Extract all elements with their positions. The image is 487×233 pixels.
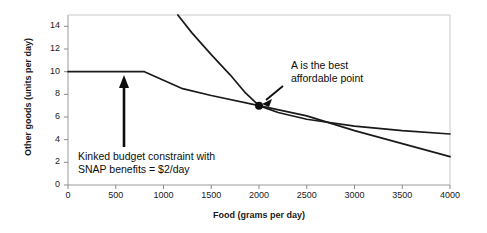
arrow-to-point-a bbox=[262, 86, 283, 107]
y-tick-label: 12 bbox=[34, 43, 60, 53]
x-tick-label: 2500 bbox=[284, 190, 330, 200]
x-tick-label: 4000 bbox=[427, 190, 473, 200]
annotation-line-2: SNAP benefits = $2/day bbox=[78, 163, 215, 176]
y-tick-label: 10 bbox=[34, 66, 60, 76]
x-tick-label: 1500 bbox=[188, 190, 234, 200]
x-tick-label: 1000 bbox=[141, 190, 187, 200]
x-tick-label: 2000 bbox=[236, 190, 282, 200]
y-tick-label: 0 bbox=[34, 179, 60, 189]
annotation-kinked-budget-constraint: Kinked budget constraint with SNAP benef… bbox=[78, 150, 215, 176]
annotation-line-1: A is the best bbox=[291, 59, 363, 72]
point-a-marker bbox=[255, 102, 263, 110]
y-tick-label: 4 bbox=[34, 134, 60, 144]
y-tick-marks bbox=[64, 26, 68, 185]
y-tick-label: 2 bbox=[34, 156, 60, 166]
annotation-best-affordable-point: A is the best affordable point bbox=[291, 59, 363, 85]
annotation-line-2: affordable point bbox=[291, 72, 363, 85]
y-tick-label: 14 bbox=[34, 20, 60, 30]
x-tick-label: 3000 bbox=[332, 190, 378, 200]
x-tick-label: 3500 bbox=[379, 190, 425, 200]
x-tick-marks bbox=[68, 185, 450, 189]
x-axis-label: Food (grams per day) bbox=[68, 210, 450, 220]
y-tick-label: 6 bbox=[34, 111, 60, 121]
budget-constraint-chart: Other goods (units per day) Food (grams … bbox=[0, 0, 487, 233]
y-tick-label: 8 bbox=[34, 88, 60, 98]
arrow-to-kink bbox=[119, 75, 129, 147]
x-tick-label: 0 bbox=[45, 190, 91, 200]
x-tick-label: 500 bbox=[93, 190, 139, 200]
y-axis-label: Other goods (units per day) bbox=[23, 12, 33, 182]
annotation-line-1: Kinked budget constraint with bbox=[78, 150, 215, 163]
